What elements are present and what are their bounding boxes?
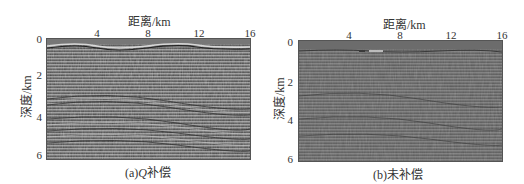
y-axis-label: 深度/km <box>17 75 35 118</box>
seismic-section-a <box>46 38 251 160</box>
seismic-section-b <box>298 40 503 162</box>
seismic-image-b <box>299 41 502 161</box>
y-tick-6: 6 <box>30 150 42 161</box>
y-tick-0: 0 <box>30 34 42 45</box>
panel-uncompensated: 距离/km 4 8 12 16 0 2 4 6 深度/km <box>262 0 524 184</box>
panel-q-compensation: 距离/km 4 8 12 16 0 2 4 6 深度/km <box>0 0 262 184</box>
caption-b: (b)未补偿 <box>373 165 423 183</box>
caption-a: (a)Q补偿 <box>125 163 171 181</box>
y-axis-label: 深度/km <box>270 77 288 120</box>
y-tick-0: 0 <box>281 37 293 48</box>
y-tick-6: 6 <box>281 154 293 165</box>
x-axis-label: 距离/km <box>383 15 426 33</box>
seismic-image-a <box>47 39 250 159</box>
